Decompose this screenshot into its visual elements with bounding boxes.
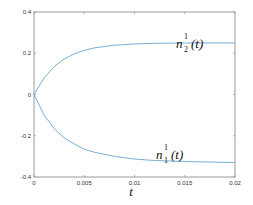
series-line-n21: [34, 43, 235, 95]
x-axis-ticks: 00.0050.010.0150.02: [32, 12, 241, 186]
x-tick-label: 0.015: [177, 180, 193, 186]
series-group: [34, 43, 235, 163]
curve-label-n21-arg: (t): [191, 36, 203, 51]
line-chart: 00.0050.010.0150.02 0.40.20-0.2-0.4 n 1 …: [0, 0, 253, 205]
y-tick-label: -0.4: [21, 174, 32, 180]
curve-label-n11-arg: (t): [171, 147, 183, 162]
curve-label-n11-sup: 1: [164, 143, 168, 152]
curve-label-n21: n: [176, 36, 183, 51]
x-tick-label: 0: [32, 180, 36, 186]
x-tick-label: 0.02: [229, 180, 241, 186]
series-line-n11: [34, 95, 235, 163]
x-tick-label: 0.005: [77, 180, 93, 186]
curve-label-n11: n: [156, 147, 163, 162]
y-tick-label: 0: [28, 92, 32, 98]
y-axis-ticks: 0.40.20-0.2-0.4: [21, 9, 235, 180]
y-tick-label: 0.2: [23, 50, 32, 56]
y-tick-label: 0.4: [23, 9, 32, 15]
curve-label-n11-sub: 1: [164, 156, 168, 165]
y-tick-label: -0.2: [21, 133, 32, 139]
curve-label-n21-sup: 1: [184, 32, 188, 41]
curve-label-n21-sub: 2: [184, 45, 188, 54]
plot-area-frame: [34, 12, 235, 177]
x-axis-label: t: [129, 184, 133, 199]
